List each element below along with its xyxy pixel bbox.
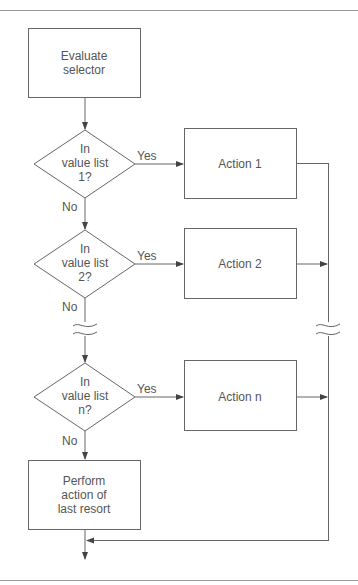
- action-n-label: Action n: [184, 390, 296, 404]
- start-label-line1: Evaluate: [28, 49, 140, 63]
- decision-1-label: In value list 1?: [45, 142, 125, 184]
- start-label-line2: selector: [28, 63, 140, 77]
- edge-no-1: No: [62, 200, 77, 214]
- decision-2-line3: 2?: [45, 270, 125, 284]
- decision-n-label: In value list n?: [45, 375, 125, 417]
- action-1-label: Action 1: [184, 157, 296, 171]
- last-resort-line2: action of: [28, 488, 140, 502]
- edge-no-2: No: [62, 300, 77, 314]
- start-label: Evaluate selector: [28, 49, 140, 77]
- decision-n-line1: In: [45, 375, 125, 389]
- edge-yes-2: Yes: [137, 249, 157, 263]
- decision-n-line3: n?: [45, 403, 125, 417]
- decision-1-line1: In: [45, 142, 125, 156]
- action-2-label: Action 2: [184, 257, 296, 271]
- edge-yes-1: Yes: [137, 149, 157, 163]
- decision-n-line2: value list: [45, 389, 125, 403]
- edge-yes-n: Yes: [137, 382, 157, 396]
- decision-2-line1: In: [45, 242, 125, 256]
- decision-2-line2: value list: [45, 256, 125, 270]
- last-resort-label: Perform action of last resort: [28, 474, 140, 516]
- last-resort-line3: last resort: [28, 502, 140, 516]
- decision-1-line3: 1?: [45, 170, 125, 184]
- edge-no-n: No: [62, 434, 77, 448]
- decision-1-line2: value list: [45, 156, 125, 170]
- last-resort-line1: Perform: [28, 474, 140, 488]
- decision-2-label: In value list 2?: [45, 242, 125, 284]
